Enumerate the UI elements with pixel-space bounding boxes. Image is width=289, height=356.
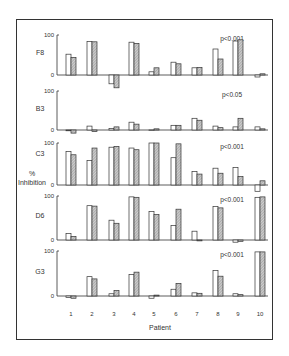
bar-open bbox=[149, 130, 154, 131]
y-tick-0: 0 bbox=[51, 127, 55, 133]
bar-hatched bbox=[176, 144, 181, 185]
bar-open bbox=[255, 127, 260, 130]
bar-hatched bbox=[176, 283, 181, 296]
bar-hatched bbox=[238, 240, 243, 241]
panel-f8: 1000F8p<0.001 bbox=[36, 32, 268, 88]
bar-open bbox=[213, 49, 218, 75]
bar-open bbox=[255, 75, 260, 77]
bar-open bbox=[66, 54, 71, 75]
x-tick-label: 7 bbox=[195, 311, 199, 317]
bar-open bbox=[255, 197, 260, 240]
y-tick-100: 100 bbox=[44, 140, 55, 146]
bar-open bbox=[129, 122, 134, 130]
bar-open bbox=[87, 126, 92, 130]
bar-hatched bbox=[154, 295, 159, 296]
bar-hatched bbox=[71, 57, 76, 75]
bar-open bbox=[87, 277, 92, 296]
bar-hatched bbox=[238, 40, 243, 75]
bar-hatched bbox=[197, 293, 202, 296]
y-tick-100: 100 bbox=[44, 248, 55, 254]
bar-hatched bbox=[154, 214, 159, 240]
panel-label: B3 bbox=[36, 105, 45, 112]
bar-open bbox=[149, 211, 154, 240]
bar-open bbox=[192, 118, 197, 130]
x-tick-label: 3 bbox=[112, 311, 116, 317]
bar-hatched bbox=[197, 67, 202, 75]
panel-label: D6 bbox=[36, 212, 45, 219]
bar-hatched bbox=[114, 146, 119, 185]
x-axis-ticks: 12345678910 bbox=[69, 311, 264, 317]
bar-hatched bbox=[92, 279, 97, 296]
x-tick-label: 6 bbox=[174, 311, 178, 317]
bar-hatched bbox=[260, 129, 265, 130]
bar-hatched bbox=[238, 295, 243, 296]
bar-hatched bbox=[197, 174, 202, 185]
bar-open bbox=[109, 128, 114, 130]
bar-open bbox=[171, 289, 176, 296]
bar-chart: 1000F8p<0.0011000B3p<0.051000C3p<0.00110… bbox=[0, 0, 289, 356]
bar-hatched bbox=[154, 129, 159, 130]
bar-open bbox=[129, 274, 134, 296]
bar-hatched bbox=[197, 240, 202, 241]
x-tick-label: 10 bbox=[257, 311, 264, 317]
bar-open bbox=[87, 206, 92, 240]
y-tick-100: 100 bbox=[44, 88, 55, 94]
bar-hatched bbox=[154, 68, 159, 75]
y-tick-0: 0 bbox=[51, 293, 55, 299]
p-value: p<0.001 bbox=[220, 143, 244, 151]
bar-hatched bbox=[176, 64, 181, 75]
bar-open bbox=[192, 293, 197, 296]
bar-open bbox=[233, 167, 238, 185]
bar-hatched bbox=[134, 150, 139, 185]
bar-open bbox=[129, 42, 134, 75]
bar-hatched bbox=[71, 296, 76, 298]
bar-hatched bbox=[114, 223, 119, 240]
bar-open bbox=[255, 185, 260, 191]
bar-open bbox=[233, 240, 238, 242]
bar-open bbox=[233, 127, 238, 130]
bar-open bbox=[66, 296, 71, 297]
bar-open bbox=[109, 294, 114, 296]
bar-open bbox=[109, 75, 114, 84]
x-axis-label: Patient bbox=[149, 324, 171, 331]
bar-open bbox=[129, 197, 134, 240]
bar-hatched bbox=[134, 197, 139, 240]
bar-hatched bbox=[92, 148, 97, 185]
bar-open bbox=[87, 41, 92, 75]
bar-open bbox=[87, 161, 92, 185]
bar-hatched bbox=[71, 236, 76, 240]
y-tick-0: 0 bbox=[51, 72, 55, 78]
bar-hatched bbox=[114, 127, 119, 130]
y-tick-0: 0 bbox=[51, 182, 55, 188]
bar-open bbox=[171, 225, 176, 240]
bar-open bbox=[213, 168, 218, 185]
p-value: p<0.001 bbox=[220, 251, 244, 259]
x-tick-label: 4 bbox=[132, 311, 136, 317]
bar-open bbox=[149, 143, 154, 185]
bar-open bbox=[171, 125, 176, 130]
panel-c3: 1000C3p<0.001 bbox=[36, 140, 268, 191]
p-value: p<0.001 bbox=[220, 196, 244, 204]
bar-open bbox=[233, 41, 238, 75]
bar-hatched bbox=[92, 130, 97, 132]
bar-hatched bbox=[134, 124, 139, 130]
bar-hatched bbox=[260, 181, 265, 185]
bar-hatched bbox=[114, 75, 119, 88]
x-tick-label: 5 bbox=[152, 311, 156, 317]
bar-open bbox=[129, 148, 134, 185]
y-axis-label-inhibition: Inhibition bbox=[18, 179, 46, 186]
bar-open bbox=[66, 130, 71, 131]
bar-open bbox=[171, 62, 176, 75]
bar-hatched bbox=[92, 42, 97, 75]
y-tick-0: 0 bbox=[51, 237, 55, 243]
bar-open bbox=[149, 72, 154, 75]
bar-hatched bbox=[218, 208, 223, 240]
panel-label: F8 bbox=[36, 49, 44, 56]
bar-hatched bbox=[114, 291, 119, 296]
bar-hatched bbox=[176, 209, 181, 240]
bar-open bbox=[109, 147, 114, 185]
bar-open bbox=[213, 207, 218, 240]
bar-hatched bbox=[218, 173, 223, 185]
bar-open bbox=[255, 252, 260, 296]
panel-label: G3 bbox=[35, 268, 44, 275]
